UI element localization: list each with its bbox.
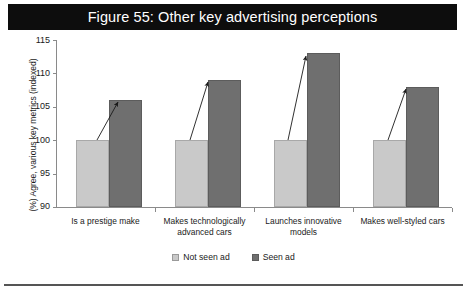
chart-legend: Not seen ad Seen ad (0, 252, 467, 262)
bar-seen-ad-1 (109, 100, 142, 207)
x-category-label-2-line-1: Makes technologically (155, 216, 254, 227)
legend-item-seen-ad: Seen ad (252, 252, 295, 262)
y-axis-line (56, 40, 57, 208)
x-category-label-2: Makes technologically advanced cars (155, 216, 254, 237)
x-category-label-1: Is a prestige make (56, 216, 155, 227)
x-category-label-3-line-1: Launches innovative (254, 216, 353, 227)
x-category-label-4-line-1: Makes well-styled cars (353, 216, 452, 227)
x-tick-mark-1 (155, 208, 156, 212)
bar-seen-ad-3 (307, 53, 340, 207)
x-category-label-2-line-2: advanced cars (155, 227, 254, 238)
chart-plot-area: (%) Agree, various key metrics (indexed)… (0, 30, 467, 275)
y-tick-label-105: 105 (26, 102, 50, 111)
figure-title-bar: Figure 55: Other key advertising percept… (8, 4, 457, 30)
bar-not-seen-ad-2 (175, 140, 208, 207)
legend-swatch-icon-not-seen-ad (172, 254, 179, 261)
figure-container: Figure 55: Other key advertising percept… (0, 0, 467, 291)
y-tick-label-90: 90 (26, 202, 50, 211)
x-category-label-4: Makes well-styled cars (353, 216, 452, 227)
bar-seen-ad-4 (406, 87, 439, 207)
footer-divider (4, 284, 463, 286)
legend-swatch-icon-seen-ad (252, 254, 259, 261)
bar-not-seen-ad-1 (76, 140, 109, 207)
x-tick-mark-4 (452, 208, 453, 212)
figure-title: Figure 55: Other key advertising percept… (88, 9, 378, 25)
bar-seen-ad-2 (208, 80, 241, 207)
bar-not-seen-ad-4 (373, 140, 406, 207)
legend-label-seen-ad: Seen ad (263, 252, 295, 262)
y-tick-label-100: 100 (26, 136, 50, 145)
bar-not-seen-ad-3 (274, 140, 307, 207)
y-tick-label-110: 110 (26, 69, 50, 78)
y-tick-label-115: 115 (26, 36, 50, 45)
legend-label-not-seen-ad: Not seen ad (183, 252, 229, 262)
x-category-label-3: Launches innovative models (254, 216, 353, 237)
x-tick-mark-2 (254, 208, 255, 212)
y-tick-label-95: 95 (26, 169, 50, 178)
x-tick-mark-3 (353, 208, 354, 212)
x-category-label-3-line-2: models (254, 227, 353, 238)
x-category-label-1-line-1: Is a prestige make (56, 216, 155, 227)
legend-item-not-seen-ad: Not seen ad (172, 252, 229, 262)
